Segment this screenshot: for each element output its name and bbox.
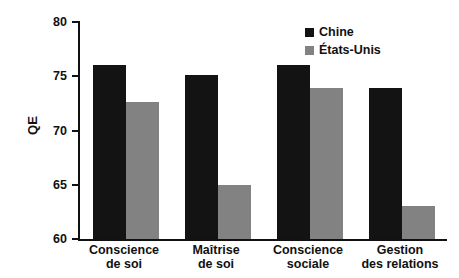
y-tick-label: 75 [27, 70, 67, 83]
y-tick-label: 80 [27, 16, 67, 29]
bar-etats-unis [310, 88, 343, 239]
y-tick-label: 60 [27, 233, 67, 246]
bar-group [93, 22, 159, 239]
y-tick-label: 70 [27, 125, 67, 138]
legend-swatch-icon [305, 28, 314, 37]
chart-legend: Chine États-Unis [305, 24, 381, 60]
legend-item-etats-unis: États-Unis [305, 42, 381, 58]
bar-etats-unis [126, 102, 159, 239]
bar-etats-unis [402, 206, 435, 239]
bar-chine [277, 65, 310, 239]
y-tick-label: 65 [27, 179, 67, 192]
bar-etats-unis [218, 185, 251, 239]
bar-chine [185, 75, 218, 239]
legend-label: États-Unis [319, 44, 381, 57]
bar-group [185, 22, 251, 239]
bar-chine [93, 65, 126, 239]
x-category-label: Gestion des relations [340, 244, 459, 271]
legend-swatch-icon [305, 46, 314, 55]
bar-chine [369, 88, 402, 239]
legend-item-chine: Chine [305, 24, 381, 40]
x-axis-line [78, 239, 447, 241]
plot-area [78, 22, 446, 239]
legend-label: Chine [319, 26, 354, 39]
bar-chart: QE 6065707580 Conscience de soiMaîtrise … [0, 0, 459, 278]
